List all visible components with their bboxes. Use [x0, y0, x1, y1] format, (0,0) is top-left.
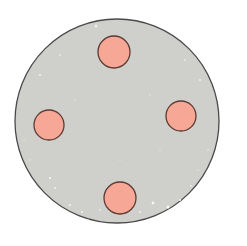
speckle — [95, 25, 97, 27]
pink-dot-top — [98, 36, 130, 68]
speckle — [104, 225, 106, 227]
pink-dot-left — [34, 110, 64, 140]
speckle — [23, 139, 24, 140]
speckle — [69, 204, 71, 206]
pink-dot-bottom — [104, 182, 136, 214]
speckle — [99, 209, 101, 211]
speckle — [59, 54, 61, 56]
speckle — [184, 59, 186, 61]
speckle — [74, 99, 75, 100]
speckle — [39, 74, 41, 76]
speckle — [29, 159, 30, 160]
speckle — [119, 159, 120, 160]
speckle — [190, 185, 192, 187]
speckle — [87, 219, 89, 221]
speckle — [149, 94, 150, 95]
speckle — [149, 222, 150, 223]
speckle — [81, 211, 83, 213]
speckle — [199, 79, 201, 81]
speckle — [152, 202, 155, 205]
speckle — [139, 211, 141, 213]
diagram-canvas — [0, 0, 247, 246]
speckle — [197, 169, 198, 170]
speckle — [159, 149, 160, 150]
speckle — [49, 177, 51, 179]
speckle — [129, 229, 130, 230]
speckle — [179, 199, 181, 201]
pink-dot-right — [166, 101, 196, 131]
speckle — [166, 205, 169, 208]
speckle — [54, 187, 56, 189]
speckle — [207, 149, 208, 150]
speckle — [39, 199, 40, 200]
